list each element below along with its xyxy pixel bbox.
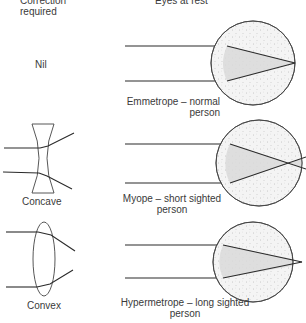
hypermetrope-eye-diagram	[125, 222, 302, 302]
convex-lens-diagram	[6, 222, 75, 296]
concave-lens-diagram	[3, 124, 74, 193]
eye-label-hypermetrope: Hypermetrope – long sighted person	[118, 297, 252, 319]
header-correction-line2: required	[20, 6, 66, 17]
eye-label-line1: Hypermetrope – long sighted	[118, 297, 252, 308]
eye-label-line1: Myope – short sighted	[120, 193, 224, 204]
eye-label-line2: person	[118, 308, 252, 319]
concave-lens-icon	[32, 124, 54, 193]
eye-correction-diagram	[0, 0, 306, 323]
eye-label-line2: person	[120, 204, 224, 215]
eye-label-line1: Emmetrope – normal	[122, 96, 220, 107]
correction-label-concave: Concave	[22, 196, 61, 207]
correction-label-nil: Nil	[35, 59, 47, 70]
correction-label-convex: Convex	[27, 300, 61, 311]
emmetrope-eye-diagram	[125, 21, 295, 105]
eye-label-myope: Myope – short sighted person	[120, 193, 224, 215]
eye-label-emmetrope: Emmetrope – normal person	[122, 96, 220, 118]
header-eyes-at-rest: Eyes at rest	[155, 0, 208, 6]
header-correction-required: Correction required	[20, 0, 66, 17]
eye-label-line2: person	[122, 107, 220, 118]
